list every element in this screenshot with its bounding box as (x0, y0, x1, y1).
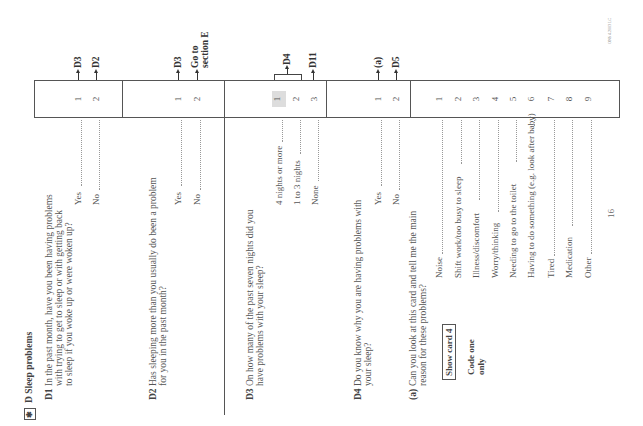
option-label: 4 nights or more (274, 146, 284, 205)
leader-dots (318, 120, 319, 181)
route-arrow-icon (96, 72, 97, 80)
question-text-line: with trying to get to sleep or with gett… (54, 194, 64, 400)
route-arrow-icon (178, 72, 179, 80)
route-arrow-icon (197, 72, 198, 80)
question-number: D4 (353, 386, 363, 400)
question-d4a: (a)Can you look at this card and tell me… (408, 211, 428, 400)
question-number: (a) (408, 386, 418, 400)
question-d4: D4Do you know why you are having problem… (353, 200, 373, 400)
question-text-line: reason for these problems? (418, 211, 428, 400)
leader-dots (300, 120, 301, 154)
leader-dots (81, 120, 82, 186)
option-label: No (391, 194, 401, 205)
question-text-line: Has sleeping more than you usually do be… (148, 177, 158, 386)
leader-dots (572, 120, 573, 226)
option-label: Yes (73, 192, 83, 205)
code-one-only-instruction: Code one only (466, 339, 486, 375)
route-label: D2 (91, 56, 101, 68)
leader-dots (399, 120, 400, 190)
route-arrow-icon (378, 72, 379, 80)
option-label: None (310, 186, 320, 206)
route-label: D4 (282, 53, 292, 65)
route-label: D11 (308, 52, 318, 68)
option-label: Yes (173, 192, 183, 205)
option-label: Illness/discomfort (471, 213, 481, 278)
box-divider (122, 80, 123, 118)
option-label: Worry/thinking (490, 223, 500, 278)
leader-dots (554, 120, 555, 256)
question-text-line: On how many of the past seven nights did… (245, 209, 255, 386)
route-label: (a) (373, 57, 383, 68)
question-text-line: have problems with your sleep? (255, 209, 265, 400)
leader-dots (282, 120, 283, 142)
option-label: No (91, 194, 101, 205)
leader-dots (99, 120, 100, 190)
leader-dots (200, 120, 201, 190)
option-label: Tired (546, 259, 556, 278)
route-arrow-icon (313, 72, 314, 80)
section-header: ✱D Sleep problems (24, 332, 36, 420)
question-text-line: Do you know why you are having problems … (353, 200, 363, 386)
route-label: D5 (391, 56, 401, 68)
corner-code: ONS 4.2003 LC (607, 18, 612, 44)
leader-dots (461, 120, 462, 164)
asterisk-box-icon: ✱ (24, 408, 36, 420)
question-d1: D1In the past month, have you been havin… (44, 194, 74, 400)
route-label: D3 (173, 56, 183, 68)
section-divider-line (224, 80, 225, 415)
option-label: 1 to 3 nights (292, 160, 302, 205)
leader-dots (479, 120, 480, 200)
leader-dots (181, 120, 182, 186)
leader-dots (516, 120, 517, 162)
route-arrow-icon (396, 72, 397, 80)
option-label: Needing to go to the toilet (508, 184, 518, 278)
section-title: D Sleep problems (24, 332, 34, 403)
question-d3: D3On how many of the past seven nights d… (245, 209, 265, 400)
questionnaire-page: ✱D Sleep problems D1In the past month, h… (0, 0, 643, 426)
route-arrow-icon (287, 68, 288, 74)
option-label: Other (583, 258, 593, 279)
leader-dots (442, 120, 443, 254)
page-number: 16 (606, 209, 616, 218)
route-label-line: section E (200, 31, 210, 68)
question-text-line: In the past month, have you been having … (44, 194, 54, 386)
document-frame: ✱D Sleep problems D1In the past month, h… (0, 0, 643, 426)
leader-dots (534, 120, 535, 126)
option-label: Medication (564, 237, 574, 278)
leader-dots (591, 120, 592, 254)
leader-dots (381, 120, 382, 186)
question-text-line: to sleep if you woke up or were woken up… (64, 194, 74, 400)
question-text-line: Can you look at this card and tell me th… (408, 211, 418, 386)
instruction-line: Code one (466, 339, 476, 375)
question-d2: D2Has sleeping more than you usually do … (148, 177, 168, 400)
route-label: D3 (73, 56, 83, 68)
route-label-go-to-section-e: Go to section E (190, 31, 210, 68)
instruction-line: only (476, 339, 486, 375)
question-number: D1 (44, 386, 54, 400)
option-label: Noise (434, 257, 444, 278)
option-label: Yes (373, 192, 383, 205)
leader-dots (498, 120, 499, 212)
show-card-label: Show card 4 (442, 324, 456, 380)
question-text-line: for you in the past month? (158, 177, 168, 400)
question-number: D2 (148, 386, 158, 400)
option-label: No (192, 194, 202, 205)
route-label-line: Go to (190, 31, 200, 68)
box-divider (326, 80, 327, 118)
box-divider (410, 80, 411, 118)
question-text-line: your sleep? (363, 200, 373, 400)
route-arrow-icon (78, 72, 79, 80)
question-number: D3 (245, 386, 255, 400)
option-label: Shift work/too busy to sleep (453, 177, 463, 279)
option-label: Having to do something (e.g. look after … (526, 113, 536, 278)
